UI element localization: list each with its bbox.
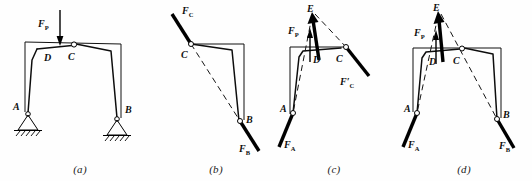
hinge-b-b [238,119,243,124]
hinge-c-c [344,45,349,50]
load-fp-head-c [307,28,313,38]
label-point-d-d: D [428,56,436,67]
hinge-c [71,42,76,47]
frame-right-deformed-d [464,48,497,119]
support-b-hatching [105,136,129,141]
support-b-triangle [107,120,127,135]
label-point-a-c: A [279,103,287,114]
label-force-fc: FC [181,5,194,18]
load-fp-head-d [433,30,439,40]
force-fc-line [172,14,191,44]
force-fcprime-line [346,47,369,76]
label-point-e-d: E [432,2,440,13]
caption-a: (a) [0,163,160,175]
frame-left-column-deformed [28,49,37,113]
label-force-fa-c: FA [283,139,296,152]
hinge-b-d [495,117,500,122]
panel-c-drawing: E FP F′C A FA C D [272,0,396,160]
label-point-c-c: C [336,53,343,64]
hinge-c-d [460,46,465,51]
panel-d: E FP A B FA FB C D (d) [396,0,532,181]
panel-c: E FP F′C A FA C D (c) [272,0,396,181]
halfframe-original-b [191,44,244,120]
label-force-fa-d: FA [407,139,420,152]
load-arrow-head [57,36,64,46]
panel-b: FC FB C B (b) [160,0,272,181]
label-load-fp-c: FP [287,25,299,38]
caption-b: (b) [160,163,272,175]
force-resultant-shaft-d [439,20,443,62]
label-load-fp-d: FP [413,27,425,40]
label-force-fcprime: F′C [339,76,354,89]
hinge-a-d [415,111,420,116]
label-point-c: C [68,51,75,62]
caption-d: (d) [396,163,532,175]
label-load-fp-a: FP [37,18,49,31]
hinge-a-c [291,111,296,116]
hinge-c-b [189,42,194,47]
caption-c: (c) [272,163,396,175]
label-point-d-c: D [312,54,320,65]
label-force-fb: FB [238,143,251,156]
label-point-b: B [124,104,132,115]
frame-beam-right-and-column-deformed [76,44,117,118]
label-point-c-b: C [181,49,188,60]
figure-root: FP A B C D (a) FC FB C B [0,0,532,181]
panel-d-drawing: E FP A B FA FB C D [396,0,532,160]
label-point-a-d: A [403,103,411,114]
support-a-triangle [18,115,38,130]
support-a-hatching [16,131,40,136]
panel-a: FP A B C D (a) [0,0,160,181]
thrust-line-ec [315,14,346,47]
label-point-b-d: B [502,109,510,120]
label-point-c-d: C [453,55,460,66]
label-point-d: D [43,52,51,63]
label-point-e-c: E [306,3,314,14]
panel-a-drawing: FP A B C D [0,0,160,160]
label-point-b-b: B [245,114,253,125]
panel-b-drawing: FC FB C B [160,0,272,160]
frame-beam-left-deformed [37,46,72,50]
thrust-line-eb-d [441,14,497,119]
label-point-a: A [12,101,20,112]
